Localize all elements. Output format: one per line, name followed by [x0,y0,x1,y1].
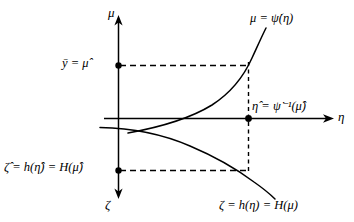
mu-hat-tick-label: ȳ = μ̂ [62,57,89,70]
upper-curve-path [128,28,266,133]
zeta-axis-line [114,118,122,199]
lower-curve-label: ζ = h(η) = H(μ) [219,199,298,212]
eta-axis-line [104,114,334,123]
mu-axis-label: μ [108,6,115,19]
upper-curve-label: μ = ψ̇(η) [250,12,293,25]
eta-hat-point-label: η̂ = ψ̇⁻¹(μ̂) [252,100,306,113]
mu-hat-marker [115,62,121,68]
diagram-canvas: μ η ζ μ = ψ̇(η) ζ = h(η) = H(μ) ȳ = μ̂ η… [0,0,354,222]
zeta-hat-marker [115,167,121,173]
eta-axis-label: η [338,110,344,123]
eta-hat-marker [245,115,252,122]
zeta-axis-label: ζ [105,198,110,211]
zeta-hat-tick-label: ζ̂ = h(η̂) = H(μ̂) [4,161,83,174]
